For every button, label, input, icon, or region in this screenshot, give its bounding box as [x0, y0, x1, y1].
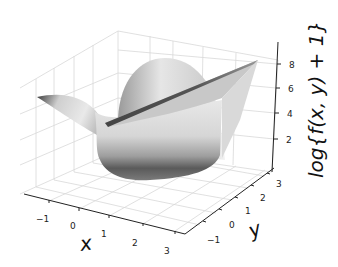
y-tick-labels: −1 0 1 2 3: [207, 179, 282, 245]
svg-text:4: 4: [287, 109, 293, 119]
svg-text:0: 0: [70, 221, 76, 231]
svg-text:3: 3: [276, 179, 282, 189]
svg-text:2: 2: [132, 238, 138, 248]
z-axis-line: [272, 42, 278, 172]
svg-text:−1: −1: [36, 214, 49, 224]
surface: [37, 58, 258, 180]
svg-text:2: 2: [286, 135, 292, 145]
svg-text:0: 0: [229, 220, 235, 230]
surface-plot: −1 0 1 2 3 −1 0 1 2 3 2 4 6 8 x y log{f(…: [0, 0, 338, 267]
svg-text:6: 6: [288, 84, 294, 94]
svg-text:1: 1: [101, 229, 107, 239]
svg-text:3: 3: [164, 246, 170, 256]
x-axis-label: x: [77, 231, 93, 257]
z-axis-label: log{f(x, y) + 1}: [304, 21, 328, 178]
y-axis-label: y: [244, 216, 265, 243]
svg-text:−1: −1: [207, 235, 220, 245]
svg-text:1: 1: [245, 206, 251, 216]
svg-text:8: 8: [289, 60, 295, 70]
svg-text:2: 2: [260, 193, 266, 203]
z-tick-labels: 2 4 6 8: [286, 60, 295, 145]
